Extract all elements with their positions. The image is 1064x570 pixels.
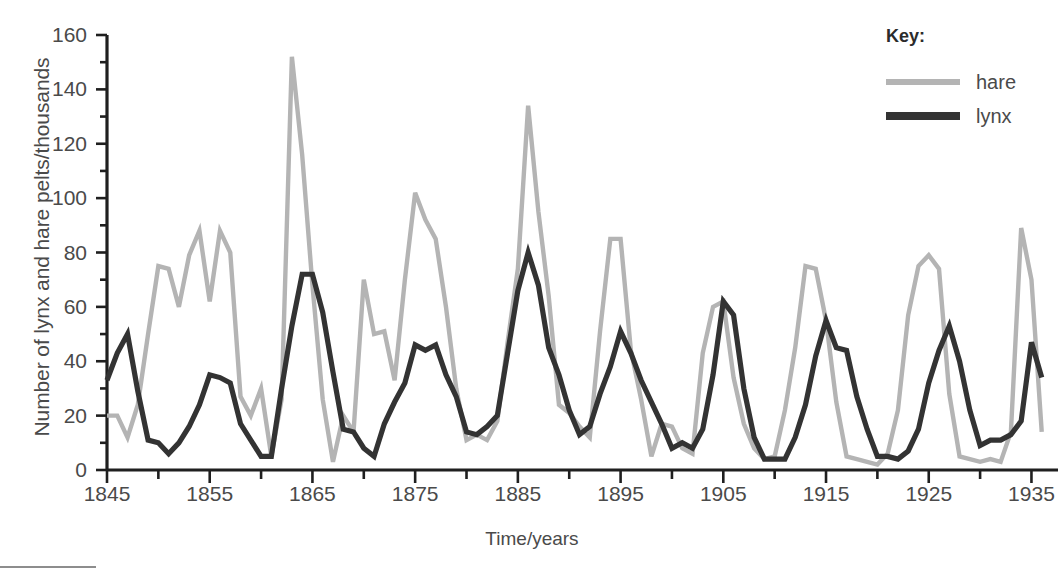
y-tick-label: 40 <box>27 349 87 373</box>
x-tick-label: 1845 <box>67 482 147 506</box>
x-axis-label: Time/years <box>0 528 1064 550</box>
y-tick-label: 120 <box>27 132 87 156</box>
y-tick-label: 60 <box>27 295 87 319</box>
legend-swatch-hare <box>886 79 960 85</box>
y-tick-label: 100 <box>27 186 87 210</box>
legend-rows: harelynx <box>886 65 1061 133</box>
x-tick-label: 1865 <box>272 482 352 506</box>
y-tick-label: 20 <box>27 404 87 428</box>
lynx-hare-chart-figure: Number of lynx and hare pelts/thousands … <box>0 0 1064 570</box>
y-tick-label: 160 <box>27 23 87 47</box>
x-tick-label: 1905 <box>683 482 763 506</box>
x-tick-label: 1935 <box>991 482 1064 506</box>
legend-title: Key: <box>886 26 1061 47</box>
legend: Key: harelynx <box>886 26 1061 133</box>
x-tick-label: 1925 <box>889 482 969 506</box>
legend-swatch-lynx <box>886 112 960 120</box>
legend-item-hare[interactable]: hare <box>886 65 1061 99</box>
legend-label-lynx: lynx <box>976 105 1012 128</box>
bottom-rule-decoration <box>0 566 96 568</box>
x-tick-label: 1855 <box>170 482 250 506</box>
y-tick-label: 80 <box>27 241 87 265</box>
legend-label-hare: hare <box>976 71 1016 94</box>
y-tick-label: 0 <box>27 458 87 482</box>
x-tick-label: 1895 <box>581 482 661 506</box>
series-line-lynx <box>107 253 1042 460</box>
legend-item-lynx[interactable]: lynx <box>886 99 1061 133</box>
x-tick-label: 1885 <box>478 482 558 506</box>
x-tick-label: 1875 <box>375 482 455 506</box>
y-tick-label: 140 <box>27 77 87 101</box>
x-tick-label: 1915 <box>786 482 866 506</box>
